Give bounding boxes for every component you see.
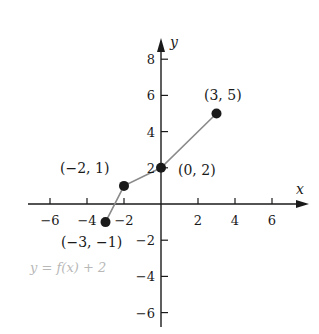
y-axis-label: y	[169, 34, 179, 50]
x-tick-label: −4	[77, 213, 96, 228]
y-tick-label: 6	[147, 88, 155, 103]
x-tick-label: 6	[268, 213, 276, 228]
y-tick-label: −6	[136, 306, 155, 321]
x-axis-arrow-icon	[296, 200, 309, 208]
x-tick-label: 4	[231, 213, 239, 228]
y-tick-label: 2	[147, 161, 155, 176]
data-point	[119, 181, 129, 191]
data-point	[212, 109, 222, 119]
point-label: (−3, −1)	[61, 234, 122, 250]
x-tick-label: 2	[194, 213, 202, 228]
axes	[28, 38, 309, 327]
function-caption: y = f(x) + 2	[29, 260, 106, 275]
data-point	[101, 217, 111, 227]
data-point	[156, 163, 166, 173]
x-tick-label: −6	[40, 213, 59, 228]
y-tick-label: 4	[147, 125, 155, 140]
x-tick-label: −2	[114, 213, 133, 228]
y-axis-arrow-icon	[157, 38, 165, 52]
point-label: (−2, 1)	[60, 160, 109, 176]
x-axis-label: x	[296, 181, 304, 197]
labels: xy−6−4−22468642−2−4−6(−3, −1)(−2, 1)(0, …	[29, 34, 304, 321]
y-tick-label: −2	[136, 233, 155, 248]
graph: xy−6−4−22468642−2−4−6(−3, −1)(−2, 1)(0, …	[0, 0, 319, 334]
y-tick-label: 8	[147, 52, 155, 67]
point-label: (0, 2)	[178, 162, 216, 178]
y-tick-label: −4	[136, 269, 155, 284]
point-label: (3, 5)	[204, 87, 242, 103]
